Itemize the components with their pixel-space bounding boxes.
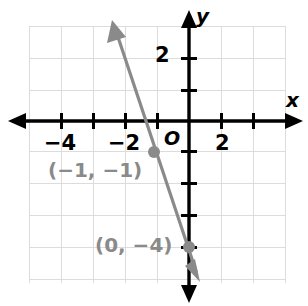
y-axis-arrow-bottom <box>181 285 197 303</box>
x-tick-label-neg2: −2 <box>108 133 140 154</box>
x-axis-label: x <box>286 90 299 110</box>
y-tick-label-2: 2 <box>155 45 170 66</box>
y-axis <box>181 10 197 303</box>
x-axis-arrow-left <box>8 113 26 129</box>
coordinate-plane-figure: −4 −2 2 2 O x y (−1, −1) (0, −4) <box>0 0 308 306</box>
x-axis-arrow-right <box>285 113 303 129</box>
point-label-0-neg4: (0, −4) <box>95 235 172 255</box>
data-point-neg1-neg1 <box>148 146 160 158</box>
x-tick-label-neg4: −4 <box>44 133 76 154</box>
y-axis-label: y <box>196 6 209 26</box>
origin-label: O <box>164 129 180 148</box>
data-point-0-neg4 <box>183 241 195 253</box>
x-axis <box>8 113 303 129</box>
x-tick-label-2: 2 <box>215 133 230 154</box>
line-arrow-down <box>185 259 200 282</box>
line-arrow-up <box>107 20 126 43</box>
point-label-neg1-neg1: (−1, −1) <box>48 160 142 180</box>
y-axis-arrow-top <box>181 10 197 28</box>
